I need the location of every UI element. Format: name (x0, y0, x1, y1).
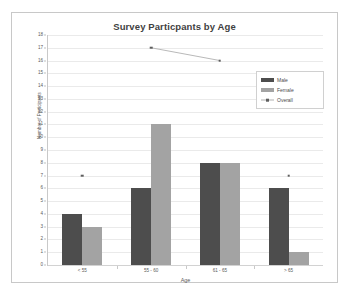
legend-swatch-female-icon (261, 88, 274, 92)
x-axis-separator (186, 266, 187, 269)
y-axis-tick-label: 4 (40, 212, 43, 217)
x-axis-title: Age (48, 277, 323, 283)
chart-container: Survey Particpants by Age Number of Part… (11, 12, 338, 283)
legend-swatch-overall-icon (261, 98, 274, 102)
y-axis-tick-label: 8 (40, 160, 43, 165)
y-axis-tick-mark (44, 162, 46, 163)
y-axis-tick-label: 16 (38, 58, 43, 63)
y-axis-tick-label: 6 (40, 186, 43, 191)
y-axis-tick-label: 15 (38, 71, 43, 76)
y-axis-tick-label: 5 (40, 199, 43, 204)
y-axis-tick-mark (44, 201, 46, 202)
y-axis-tick-mark (44, 47, 46, 48)
x-axis-tick-label: 61 - 65 (213, 268, 227, 273)
y-axis-tick-mark (44, 265, 46, 266)
y-axis-tick-mark (44, 111, 46, 112)
legend-item-overall: Overall (261, 95, 319, 105)
y-axis-tick-label: 9 (40, 148, 43, 153)
legend-item-male: Male (261, 75, 319, 85)
legend-label-male: Male (277, 77, 288, 83)
legend-label-overall: Overall (277, 97, 293, 103)
y-axis-tick-label: 12 (38, 109, 43, 114)
y-axis-tick-mark (44, 175, 46, 176)
y-axis-tick-mark (44, 35, 46, 36)
chart-legend: Male Female Overall (256, 71, 324, 109)
overall-data-point (219, 59, 222, 62)
y-axis-tick-label: 17 (38, 45, 43, 50)
y-axis-tick-mark (44, 252, 46, 253)
y-axis-tick-mark (44, 239, 46, 240)
y-axis-tick-label: 0 (40, 263, 43, 268)
y-axis-tick-label: 14 (38, 84, 43, 89)
y-axis-tick-mark (44, 73, 46, 74)
y-axis-tick-label: 11 (38, 122, 43, 127)
x-axis-separator (117, 266, 118, 269)
y-axis-tick-mark (44, 188, 46, 189)
x-axis-tick-label: < 55 (78, 268, 87, 273)
y-axis-tick-mark (44, 98, 46, 99)
y-axis-tick-label: 18 (38, 33, 43, 38)
overall-line (48, 35, 323, 265)
chart-title: Survey Particpants by Age (12, 21, 337, 32)
y-axis-tick-mark (44, 213, 46, 214)
y-axis-tick-mark (44, 150, 46, 151)
plot-area (48, 35, 323, 265)
y-axis-tick-mark (44, 124, 46, 125)
y-axis-tick-label: 1 (40, 250, 43, 255)
legend-item-female: Female (261, 85, 319, 95)
x-axis-tick-label: > 65 (284, 268, 293, 273)
y-axis-tick-label: 10 (38, 135, 43, 140)
y-axis-tick-label: 2 (40, 237, 43, 242)
y-axis-tick-mark (44, 226, 46, 227)
y-axis-tick-mark (44, 137, 46, 138)
overall-series-layer (48, 35, 323, 265)
x-axis-tick-label: 55 - 60 (144, 268, 158, 273)
y-axis-tick-label: 7 (40, 173, 43, 178)
overall-data-point (81, 174, 84, 177)
y-axis-tick-label: 13 (38, 97, 43, 102)
overall-line-segment (151, 48, 220, 61)
y-axis-tick-mark (44, 86, 46, 87)
legend-swatch-male-icon (261, 78, 274, 82)
y-axis-tick-mark (44, 60, 46, 61)
overall-data-point (287, 174, 290, 177)
y-axis-tick-label: 3 (40, 224, 43, 229)
x-axis-separator (254, 266, 255, 269)
overall-data-point (150, 46, 153, 49)
legend-label-female: Female (277, 87, 294, 93)
y-axis-tick-labels: 0123456789101112131415161718 (12, 35, 46, 265)
